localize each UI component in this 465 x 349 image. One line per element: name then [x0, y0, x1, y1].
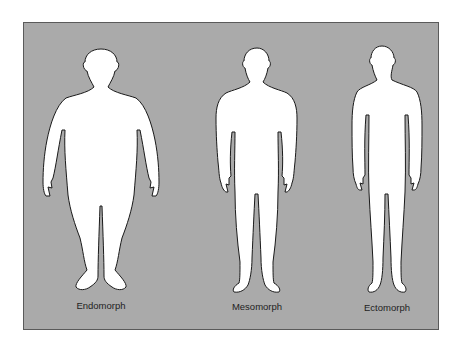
mesomorph-silhouette: [216, 48, 297, 292]
ectomorph-label: Ectomorph: [364, 302, 410, 313]
endomorph-silhouette: [43, 49, 159, 290]
ectomorph-silhouette: [352, 46, 422, 292]
endomorph-label: Endomorph: [76, 300, 125, 311]
silhouettes: [0, 0, 465, 349]
mesomorph-label: Mesomorph: [232, 301, 282, 312]
